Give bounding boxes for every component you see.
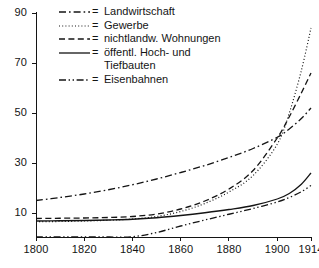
x-axis-tick-label: 1860 bbox=[164, 243, 198, 255]
legend-item-1[interactable]: =Gewerbe bbox=[57, 19, 247, 33]
legend-item-0[interactable]: =Landwirtschaft bbox=[57, 5, 247, 19]
series-line-0 bbox=[36, 108, 311, 201]
legend-line-sample-icon bbox=[57, 32, 92, 46]
x-axis-tick-label: 1840 bbox=[115, 243, 149, 255]
legend-line-sample-icon bbox=[57, 73, 92, 87]
y-axis-tick-label: 30 bbox=[3, 156, 27, 168]
series-line-2 bbox=[36, 73, 311, 219]
legend-item-label-continued: Tiefbauten bbox=[104, 59, 156, 73]
legend-item-2[interactable]: =nichtlandw. Wohnungen bbox=[57, 32, 247, 46]
legend-item-label: nichtlandw. Wohnungen bbox=[104, 32, 221, 46]
y-axis-tick-label: 10 bbox=[3, 206, 27, 218]
x-axis-tick-label: 1914 bbox=[294, 243, 319, 255]
series-line-4 bbox=[36, 186, 311, 238]
legend-equals-sign: = bbox=[92, 32, 104, 46]
legend-item-label: Landwirtschaft bbox=[104, 5, 175, 19]
legend-line-sample-icon bbox=[57, 5, 92, 19]
legend-item-4[interactable]: =Eisenbahnen bbox=[57, 73, 247, 87]
y-axis-tick-label: 70 bbox=[3, 56, 27, 68]
x-axis-tick-label: 1900 bbox=[260, 243, 294, 255]
y-axis-tick-label: 50 bbox=[3, 106, 27, 118]
legend-item-label: Eisenbahnen bbox=[104, 73, 168, 87]
x-axis-tick-label: 1800 bbox=[19, 243, 53, 255]
y-axis-tick-label: 90 bbox=[3, 6, 27, 18]
legend-equals-sign: = bbox=[92, 73, 104, 87]
x-axis-tick-label: 1820 bbox=[67, 243, 101, 255]
legend-line-sample-icon bbox=[57, 46, 92, 60]
x-axis-tick-label: 1880 bbox=[212, 243, 246, 255]
line-chart: 9070503010 1800182018401860188019001914 … bbox=[0, 0, 319, 268]
legend-item-label: Gewerbe bbox=[104, 19, 149, 33]
legend-item-label: öffentl. Hoch- und bbox=[104, 46, 191, 60]
chart-legend: =Landwirtschaft=Gewerbe=nichtlandw. Wohn… bbox=[57, 5, 247, 86]
legend-equals-sign: = bbox=[92, 19, 104, 33]
legend-equals-sign: = bbox=[92, 46, 104, 60]
legend-item-3-continuation: =Tiefbauten bbox=[57, 59, 247, 73]
legend-line-sample-icon bbox=[57, 19, 92, 33]
legend-item-3[interactable]: =öffentl. Hoch- und bbox=[57, 46, 247, 60]
legend-equals-sign: = bbox=[92, 5, 104, 19]
